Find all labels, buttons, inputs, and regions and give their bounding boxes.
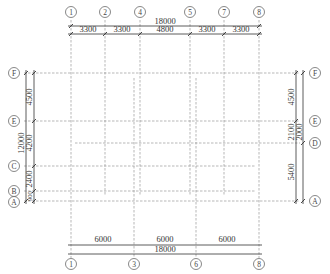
bottom-axis-bubbles: 1 3 6 8 [66, 259, 265, 270]
right-axis-bubbles: F E D A [310, 68, 321, 207]
dim-left-seg-1: 4500 [24, 89, 34, 106]
bottom-dimension-text: 6000 6000 6000 18000 [95, 234, 236, 254]
axis-label-4-top: 4 [138, 8, 142, 17]
vertical-grid-lines [71, 20, 259, 258]
dim-left-seg-3: 2400 [24, 171, 34, 188]
axis-label-8-top: 8 [257, 8, 261, 17]
horizontal-grid-lines [24, 73, 300, 201]
dim-right-seg-4: 5400 [286, 164, 296, 181]
dim-right-seg-1: 4500 [286, 89, 296, 106]
axis-label-D-right: D [312, 139, 318, 148]
right-dimension-text: 4500 2100 2000 5400 [286, 89, 304, 181]
dim-top-seg-1: 3300 [80, 24, 97, 34]
grid-plan-canvas: 1 2 4 5 7 8 1 3 6 8 F E C B A F E D A 18… [0, 0, 330, 274]
dim-left-seg-4: 900 [26, 191, 33, 201]
dim-top-seg-5: 3300 [233, 24, 250, 34]
dim-top-seg-3: 4800 [157, 24, 174, 34]
axis-label-2-top: 2 [103, 8, 107, 17]
axis-label-A-right: A [312, 197, 318, 206]
dim-bottom-seg-3: 6000 [219, 234, 236, 244]
dim-top-seg-2: 3300 [114, 24, 131, 34]
axis-label-F-right: F [313, 69, 317, 78]
dim-top-seg-4: 3300 [199, 24, 216, 34]
axis-label-F-left: F [12, 69, 16, 78]
axis-label-7-top: 7 [222, 8, 226, 17]
dim-left-seg-2: 4200 [24, 135, 34, 152]
axis-label-C-left: C [11, 162, 16, 171]
axis-label-B-left: B [11, 187, 16, 196]
dim-right-seg-3: 2000 [294, 124, 304, 141]
axis-label-8-bottom: 8 [257, 260, 261, 269]
axis-label-A-left: A [11, 198, 17, 207]
dim-bottom-seg-2: 6000 [157, 234, 174, 244]
dim-bottom-total: 18000 [154, 244, 175, 254]
axis-label-3-bottom: 3 [132, 260, 136, 269]
axis-label-E-left: E [12, 117, 17, 126]
axis-label-1-bottom: 1 [69, 260, 73, 269]
dim-bottom-seg-1: 6000 [95, 234, 112, 244]
axis-label-1-top: 1 [69, 8, 73, 17]
left-dimension-text: 12000 4500 4200 2400 900 [16, 89, 34, 201]
axis-label-6-bottom: 6 [194, 260, 198, 269]
axis-label-E-right: E [313, 117, 318, 126]
axis-label-5-top: 5 [188, 8, 192, 17]
